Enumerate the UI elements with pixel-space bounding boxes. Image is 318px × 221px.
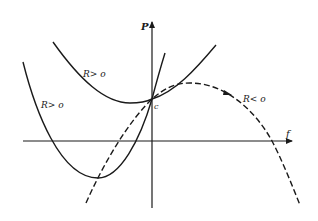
upper-parabola-curve (53, 42, 216, 103)
f-axis-label: f (285, 128, 292, 139)
dashed-curve-label: R< o (242, 94, 266, 104)
steep-parabola-label: R> o (40, 100, 64, 110)
diagram-canvas: P f c R> o R> o R< o (0, 0, 318, 221)
p-axis-label: P (140, 21, 149, 32)
upper-parabola-label: R> o (82, 69, 106, 79)
direction-arrow-icon (223, 90, 232, 95)
point-c-label: c (154, 102, 159, 111)
